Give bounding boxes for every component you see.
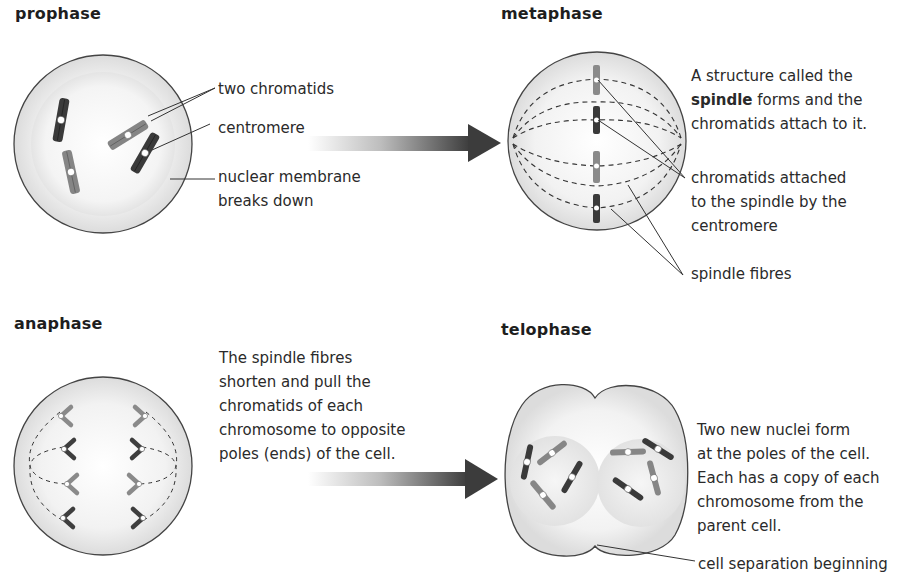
label-attached-2: to the spindle by the (691, 190, 847, 214)
heading-metaphase: metaphase (501, 4, 603, 23)
metaphase-desc-line3: chromatids attach to it. (691, 112, 867, 136)
label-cell-separation: cell separation beginning (698, 552, 888, 576)
label-spindle-fibres: spindle fibres (691, 262, 792, 286)
label-attached-3: centromere (691, 214, 778, 238)
label-centromere: centromere (218, 116, 305, 140)
metaphase-cell (508, 52, 686, 230)
heading-telophase: telophase (501, 320, 592, 339)
telophase-desc-line4: chromosome from the (697, 490, 863, 514)
spindle-term: spindle (691, 91, 753, 109)
anaphase-desc-line1: The spindle fibres (219, 346, 352, 370)
heading-anaphase: anaphase (14, 314, 103, 333)
metaphase-desc-line1: A structure called the (691, 64, 853, 88)
anaphase-desc-line4: chromosome to opposite (219, 418, 405, 442)
telophase-desc-line3: Each has a copy of each (697, 466, 879, 490)
anaphase-desc-line5: poles (ends) of the cell. (219, 442, 395, 466)
telophase-desc-line1: Two new nuclei form (697, 418, 850, 442)
metaphase-desc-line2-rest: forms and the (753, 91, 863, 109)
anaphase-cell (14, 377, 192, 555)
label-nuclear-membrane-1: nuclear membrane (218, 165, 361, 189)
telophase-desc-line5: parent cell. (697, 514, 782, 538)
telophase-cell (505, 385, 688, 556)
right-arrow-icon (308, 124, 501, 162)
label-attached-1: chromatids attached (691, 166, 846, 190)
anaphase-desc-line2: shorten and pull the (219, 370, 371, 394)
telophase-desc-line2: at the poles of the cell. (697, 442, 870, 466)
metaphase-desc-line2: spindle forms and the (691, 88, 862, 112)
label-nuclear-membrane-2: breaks down (218, 189, 314, 213)
label-two-chromatids: two chromatids (218, 77, 334, 101)
anaphase-desc-line3: chromatids of each (219, 394, 363, 418)
heading-prophase: prophase (15, 4, 101, 23)
